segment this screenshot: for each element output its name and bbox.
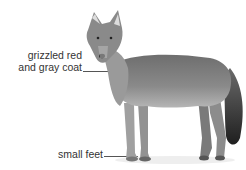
coyote-image — [80, 8, 246, 168]
annotation-coat-line2: and gray coat — [18, 61, 82, 73]
annotation-coat: grizzled red and gray coat — [18, 49, 82, 73]
annotated-photo: grizzled red and gray coat small feet — [0, 0, 246, 170]
annotation-coat-line1: grizzled red — [18, 49, 82, 61]
